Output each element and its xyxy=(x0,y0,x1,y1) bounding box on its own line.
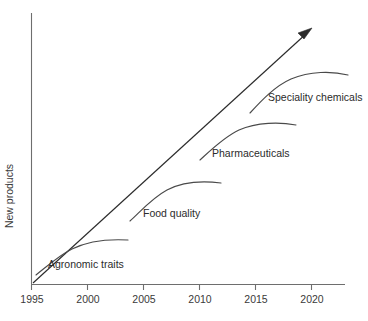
s-curve-chart: New products 1995 2000 2005 2010 2015 20… xyxy=(0,0,368,321)
chart-canvas: New products 1995 2000 2005 2010 2015 20… xyxy=(0,0,368,321)
curve-label-speciality-chemicals: Speciality chemicals xyxy=(268,91,363,103)
y-axis-group: New products xyxy=(3,13,32,284)
x-tick-label-2005: 2005 xyxy=(132,293,156,305)
trend-arrow-head xyxy=(298,28,312,39)
x-tick-label-2000: 2000 xyxy=(76,293,100,305)
x-tick-label-2020: 2020 xyxy=(300,293,324,305)
y-axis-title: New products xyxy=(3,164,15,228)
x-tick-label-2015: 2015 xyxy=(244,293,268,305)
curve-label-food-quality: Food quality xyxy=(143,207,201,219)
curve-label-agronomic-traits: Agronomic traits xyxy=(48,258,124,270)
curve-label-pharmaceuticals: Pharmaceuticals xyxy=(212,147,290,159)
x-axis-group: 1995 2000 2005 2010 2015 2020 xyxy=(20,285,345,306)
x-tick-label-2010: 2010 xyxy=(188,293,212,305)
x-tick-label-1995: 1995 xyxy=(20,293,44,305)
